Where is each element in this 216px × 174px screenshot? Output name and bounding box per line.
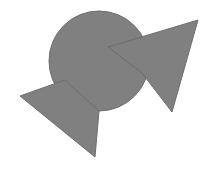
shape-svg bbox=[0, 0, 216, 174]
figure-canvas bbox=[0, 0, 216, 174]
